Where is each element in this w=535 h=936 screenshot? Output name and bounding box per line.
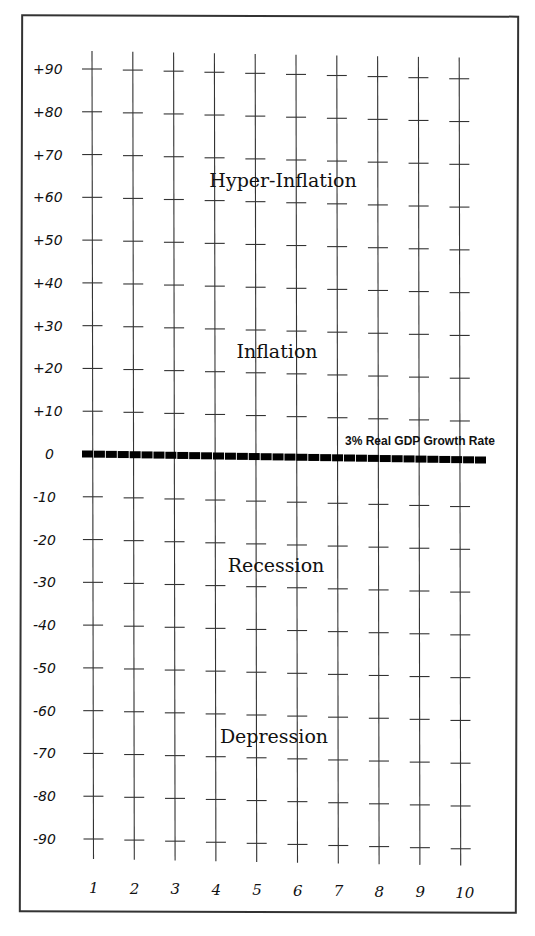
baseline-dash [439,456,450,463]
baseline-dash [427,456,438,463]
baseline-dash [296,454,307,461]
baseline-dash [153,452,164,459]
region-label: Depression [220,725,328,747]
y-tick-label: +10 [33,403,63,419]
baseline-dash [201,452,212,459]
x-tick-label: 4 [210,881,221,899]
baseline-dash [320,454,331,461]
y-tick-label: 0 [45,446,54,462]
x-tick-label: 8 [375,883,385,901]
economy-diagram: +90+80+70+60+50+40+30+20+100-10-20-30-40… [0,0,535,936]
y-tick-label: +20 [33,360,63,376]
y-tick-label: -30 [33,574,56,590]
region-label: Recession [228,554,325,576]
y-tick-label: -90 [33,831,56,847]
y-tick-label: +90 [33,61,63,77]
x-tick-label: 9 [415,883,425,901]
y-tick-label: +80 [33,104,63,120]
baseline-dash [142,451,153,458]
baseline-dash [165,452,176,459]
baseline-dash [94,451,105,458]
baseline-dash [237,453,248,460]
baseline-dash [380,455,391,462]
baseline-dash [249,453,260,460]
x-tick-label: 6 [293,882,303,900]
y-tick-label: -40 [33,617,56,633]
baseline-dash [273,453,284,460]
baseline-label: 3% Real GDP Growth Rate [345,434,495,448]
baseline-dash [225,453,236,460]
baseline-dash [332,454,343,461]
y-tick-label: +50 [33,232,63,248]
baseline-dash [213,453,224,460]
x-tick-label: 1 [89,879,99,897]
y-tick-label: +30 [33,318,63,334]
y-tick-label: -10 [33,489,56,505]
y-tick-label: -60 [33,703,56,719]
y-tick-label: -50 [33,660,56,676]
baseline-dash [368,455,379,462]
baseline-dash [130,451,141,458]
y-tick-label: -80 [33,788,56,804]
y-tick-label: +70 [33,147,63,163]
baseline-dash [463,456,474,463]
baseline-dash [118,451,129,458]
baseline-dash [261,453,272,460]
y-tick-label: +60 [33,189,63,205]
baseline-dash [177,452,188,459]
baseline-dash [451,456,462,463]
x-tick-label: 2 [129,880,140,898]
baseline-dash [344,455,355,462]
baseline-dash [356,455,367,462]
region-label: Inflation [236,340,317,362]
baseline-dash [189,452,200,459]
x-tick-label: 5 [252,881,262,899]
x-tick-label: 3 [171,880,181,898]
baseline-dash [415,456,426,463]
baseline-dash [82,451,93,458]
region-label: Hyper-Inflation [209,169,356,191]
y-tick-label: -70 [33,745,56,761]
baseline-dash [392,455,403,462]
baseline-dash [284,454,295,461]
y-tick-label: -20 [33,532,56,548]
baseline-dash [475,457,486,464]
baseline-dash [404,455,415,462]
x-tick-label: 7 [334,882,344,900]
x-tick-label: 10 [455,884,475,902]
baseline-dash [308,454,319,461]
y-tick-label: +40 [33,275,63,291]
baseline-dash [106,451,117,458]
